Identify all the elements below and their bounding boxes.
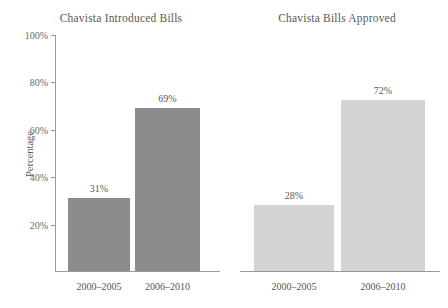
bar-introduced-2000-2005[interactable]: 31% 2000–2005 [68, 198, 130, 272]
bar-value-approved-2006-2010: 72% [374, 85, 392, 96]
bar-introduced-2006-2010[interactable]: 69% 2006–2010 [135, 108, 200, 272]
bar-approved-2000-2005[interactable]: 28% 2000–2005 [254, 205, 334, 271]
bar-value-introduced-2000-2005: 31% [90, 183, 108, 194]
panel-title-introduced-bills: Chavista Introduced Bills [0, 12, 224, 24]
panel-introduced-bills: Chavista Introduced Bills Percentage 100… [0, 0, 224, 308]
plot-area-introduced-bills: 100% 80% 60% 40% 20% 31% 2000–2005 69% 2… [55, 35, 220, 272]
plot-area-bills-approved: 28% 2000–2005 72% 2006–2010 [248, 35, 440, 272]
y-tick-mark-40 [51, 177, 55, 178]
y-tick-label-60: 60% [30, 124, 48, 135]
x-axis-line-right [240, 271, 440, 272]
y-tick-mark-100 [51, 35, 55, 36]
bar-value-approved-2000-2005: 28% [285, 190, 303, 201]
x-tick-label-approved-2000-2005: 2000–2005 [272, 281, 317, 292]
y-tick-label-20: 20% [30, 219, 48, 230]
y-tick-label-100: 100% [25, 30, 48, 41]
y-axis-line [55, 35, 56, 272]
bar-chart-figure: Chavista Introduced Bills Percentage 100… [0, 0, 448, 308]
panel-title-bills-approved: Chavista Bills Approved [224, 12, 448, 24]
y-axis-title: Percentage [24, 131, 35, 177]
y-tick-mark-20 [51, 225, 55, 226]
y-tick-mark-60 [51, 130, 55, 131]
x-tick-label-introduced-2000-2005: 2000–2005 [77, 281, 122, 292]
y-tick-label-40: 40% [30, 172, 48, 183]
bar-approved-2006-2010[interactable]: 72% 2006–2010 [341, 100, 425, 271]
x-axis-line [55, 271, 220, 272]
y-tick-mark-80 [51, 82, 55, 83]
x-tick-label-introduced-2006-2010: 2006–2010 [145, 281, 190, 292]
bar-value-introduced-2006-2010: 69% [158, 93, 176, 104]
x-tick-label-approved-2006-2010: 2006–2010 [361, 281, 406, 292]
y-tick-label-80: 80% [30, 77, 48, 88]
